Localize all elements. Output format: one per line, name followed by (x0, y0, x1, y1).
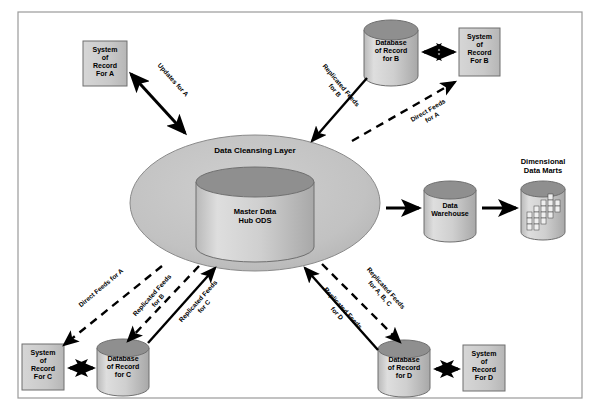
node-sor-b (459, 28, 500, 76)
node-sor-d (463, 345, 505, 391)
node-sor-a (83, 41, 127, 86)
node-db-c (97, 339, 149, 396)
data-architecture-diagram: System of Record For A Database of Recor… (0, 0, 600, 418)
node-db-b (364, 20, 418, 86)
node-db-d (378, 340, 430, 397)
node-data-warehouse (424, 181, 476, 242)
node-sor-c (22, 344, 64, 390)
node-hub-ods (196, 167, 314, 262)
node-data-marts (521, 181, 565, 240)
diagram-canvas (0, 0, 600, 418)
